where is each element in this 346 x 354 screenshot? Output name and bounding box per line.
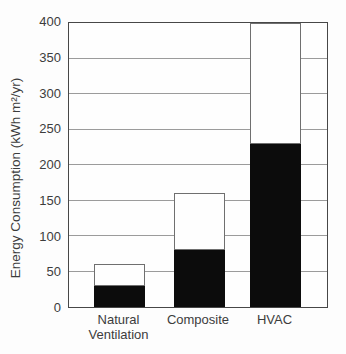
x-category-label-line: HVAC	[215, 312, 335, 327]
chart: Energy Consumption (kWh m²/yr) 050100150…	[0, 0, 346, 354]
bar-segment-white-0	[94, 264, 145, 285]
y-tick-label: 350	[0, 50, 61, 65]
bar-segment-black-0	[94, 286, 145, 307]
x-category-label: HVAC	[215, 312, 335, 327]
x-category-label-line: Ventilation	[59, 327, 179, 342]
bar-segment-black-2	[250, 144, 301, 307]
y-tick-label: 50	[0, 264, 61, 279]
plot-area	[68, 22, 328, 308]
y-tick-label: 200	[0, 157, 61, 172]
bar-segment-white-1	[174, 193, 225, 250]
y-tick-label: 300	[0, 86, 61, 101]
y-tick-label: 150	[0, 193, 61, 208]
y-tick-label: 400	[0, 14, 61, 29]
y-tick-label: 100	[0, 229, 61, 244]
y-axis-title: Energy Consumption (kWh m²/yr)	[6, 28, 26, 328]
y-tick-label: 250	[0, 121, 61, 136]
bar-segment-black-1	[174, 250, 225, 307]
y-tick-label: 0	[0, 300, 61, 315]
bar-segment-white-2	[250, 23, 301, 144]
